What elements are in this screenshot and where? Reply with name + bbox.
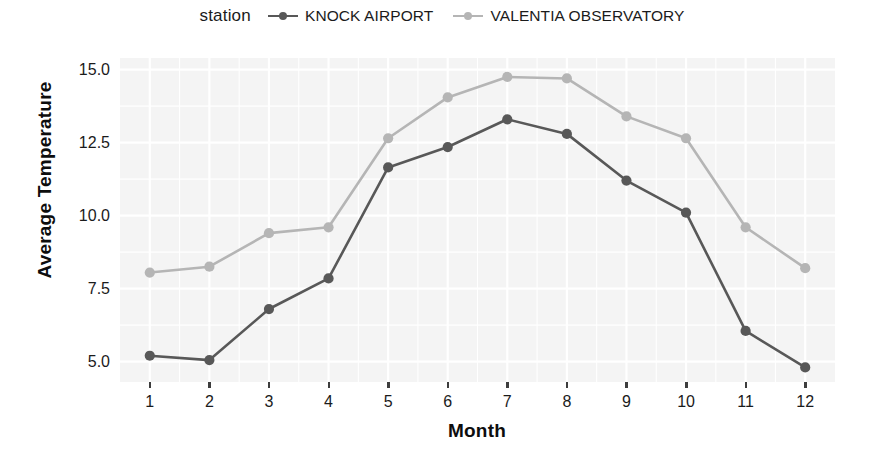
data-point <box>681 133 691 143</box>
data-point <box>621 111 631 121</box>
data-point <box>443 142 453 152</box>
legend-entry-valentia-observatory[interactable]: VALENTIA OBSERVATORY <box>453 7 684 25</box>
y-tick-label: 15.0 <box>50 61 110 79</box>
x-tick-label: 12 <box>785 393 825 411</box>
x-tick-mark <box>506 382 509 388</box>
line-point-key-icon <box>268 8 298 24</box>
data-point <box>264 228 274 238</box>
x-tick-label: 10 <box>666 393 706 411</box>
data-point <box>323 273 333 283</box>
data-point <box>443 92 453 102</box>
y-tick-label: 7.5 <box>50 280 110 298</box>
data-point <box>145 267 155 277</box>
x-tick-mark <box>328 382 331 388</box>
x-tick-mark <box>268 382 271 388</box>
data-point <box>800 362 810 372</box>
x-tick-label: 6 <box>428 393 468 411</box>
legend-title: station <box>199 6 251 26</box>
data-point <box>502 114 512 124</box>
data-point <box>204 262 214 272</box>
x-tick-mark <box>685 382 688 388</box>
x-tick-mark <box>208 382 211 388</box>
x-tick-label: 3 <box>249 393 289 411</box>
line-chart: station KNOCK AIRPORT VALENTIA OBSERVATO… <box>0 0 884 450</box>
data-point <box>621 175 631 185</box>
x-tick-mark <box>804 382 807 388</box>
data-point <box>741 326 751 336</box>
data-point <box>204 355 214 365</box>
x-tick-label: 2 <box>189 393 229 411</box>
x-tick-label: 11 <box>726 393 766 411</box>
x-axis-title: Month <box>147 420 807 442</box>
x-tick-mark <box>566 382 569 388</box>
x-tick-label: 1 <box>130 393 170 411</box>
data-point <box>264 304 274 314</box>
chart-legend: station KNOCK AIRPORT VALENTIA OBSERVATO… <box>0 2 884 30</box>
x-tick-mark <box>149 382 152 388</box>
x-tick-label: 8 <box>547 393 587 411</box>
x-tick-label: 4 <box>309 393 349 411</box>
y-tick-label: 10.0 <box>50 207 110 225</box>
legend-label: VALENTIA OBSERVATORY <box>490 7 684 25</box>
data-point <box>562 73 572 83</box>
x-tick-label: 5 <box>368 393 408 411</box>
legend-entry-knock-airport[interactable]: KNOCK AIRPORT <box>268 7 434 25</box>
x-tick-mark <box>387 382 390 388</box>
line-point-key-icon <box>453 8 483 24</box>
data-point <box>681 208 691 218</box>
x-tick-label: 7 <box>487 393 527 411</box>
data-point <box>741 222 751 232</box>
data-point <box>323 222 333 232</box>
y-tick-label: 5.0 <box>50 353 110 371</box>
data-point <box>800 263 810 273</box>
legend-label: KNOCK AIRPORT <box>305 7 434 25</box>
data-point <box>383 162 393 172</box>
y-axis-ticks: 5.07.510.012.515.0 <box>42 0 110 450</box>
data-point <box>145 351 155 361</box>
grid-lines <box>120 58 835 382</box>
x-tick-mark <box>745 382 748 388</box>
x-tick-mark <box>447 382 450 388</box>
y-tick-label: 12.5 <box>50 134 110 152</box>
x-tick-label: 9 <box>606 393 646 411</box>
x-tick-mark <box>625 382 628 388</box>
plot-area <box>120 58 835 382</box>
data-point <box>562 129 572 139</box>
plot-panel <box>120 58 835 382</box>
data-point <box>383 133 393 143</box>
data-point <box>502 72 512 82</box>
